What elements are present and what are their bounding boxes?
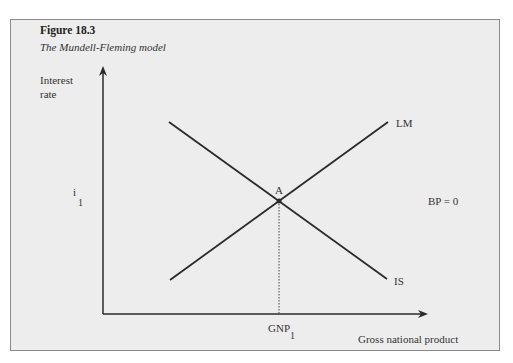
- mundell-fleming-diagram: [0, 0, 513, 363]
- y-axis: [99, 66, 107, 314]
- is-label: IS: [394, 274, 404, 288]
- x-axis-label: Gross national product: [358, 332, 458, 346]
- gnp1-label: GNP1: [268, 321, 295, 336]
- x-axis: [103, 310, 428, 318]
- point-a-label: A: [275, 183, 283, 197]
- equilibrium-point: [277, 199, 282, 204]
- i1-label: i1: [73, 185, 81, 200]
- lm-label: LM: [396, 116, 413, 130]
- bp-label: BP = 0: [428, 194, 458, 208]
